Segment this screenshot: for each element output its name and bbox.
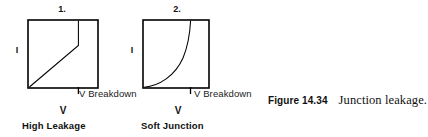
iv-curve-high-leakage [29,21,78,87]
iv-plot-high-leakage [22,14,102,94]
panel-number-label: 1. [52,4,72,14]
y-axis-label: I [127,45,137,55]
figure-caption-text: Junction leakage. [339,93,427,108]
panel-caption-label: Soft Junction [141,120,204,131]
panel-caption-label: High Leakage [22,120,86,131]
panel-number-label: 2. [167,4,187,14]
figure-junction-leakage: 1. I V Breakdown V High Leakage 2. I V B… [0,0,428,137]
panel-soft-junction: 2. I V Breakdown V Soft Junction [115,0,260,137]
breakdown-voltage-label: V Breakdown [194,88,252,99]
iv-plot-soft-junction [137,14,217,94]
y-axis-label: I [12,45,22,55]
x-axis-label: V [168,105,188,116]
plot-frame [143,20,209,88]
x-axis-label: V [53,105,73,116]
plot-frame [28,20,98,88]
iv-curve-soft-junction [144,21,190,87]
figure-caption: Figure 14.34 Junction leakage. [268,93,427,108]
figure-number-label: Figure 14.34 [268,95,328,106]
